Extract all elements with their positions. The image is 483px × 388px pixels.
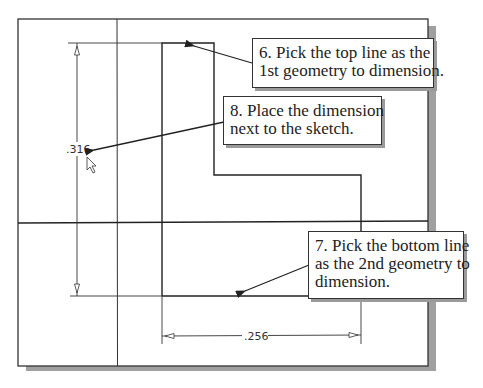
callout-step7-line3: dimension. — [315, 273, 457, 291]
callout-step8-line1: 8. Place the dimension — [230, 102, 375, 120]
callout-step8: 8. Place the dimension next to the sketc… — [223, 96, 382, 145]
dim-value-horizontal[interactable]: .256 — [244, 330, 269, 343]
callout-step6: 6. Pick the top line as the 1st geometry… — [252, 38, 434, 88]
vertical-axis-line — [117, 19, 118, 366]
callout-step8-line2: next to the sketch. — [230, 120, 375, 138]
callout-step6-line2: 1st geometry to dimension. — [259, 62, 427, 80]
callout-step7-line2: as the 2nd geometry to — [315, 255, 457, 273]
callout-step7: 7. Pick the bottom line as the 2nd geome… — [308, 231, 464, 299]
callout-step6-line1: 6. Pick the top line as the — [259, 44, 427, 62]
dim-value-vertical[interactable]: .316 — [66, 143, 91, 156]
callout-step7-line1: 7. Pick the bottom line — [315, 237, 457, 255]
